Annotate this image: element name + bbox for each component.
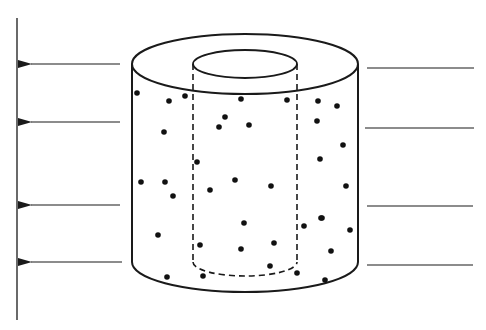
particle-dot (347, 227, 353, 233)
hollow-cylinder-diagram (0, 0, 486, 330)
particle-dot (207, 187, 213, 193)
particle-dot (294, 270, 300, 276)
particle-dot (267, 263, 273, 269)
particle-dot (268, 183, 274, 189)
particle-dot (340, 142, 346, 148)
particle-dot (161, 129, 167, 135)
particle-dot (319, 215, 325, 221)
inner-bottom-arc (193, 262, 297, 276)
particle-dot (166, 98, 172, 104)
particle-dot (328, 248, 334, 254)
particle-dot (216, 124, 222, 130)
particle-dot (301, 223, 307, 229)
particle-dot (164, 274, 170, 280)
particle-dot (162, 179, 168, 185)
particle-dot (155, 232, 161, 238)
particle-dot (182, 93, 188, 99)
particle-dot (232, 177, 238, 183)
particle-dot (241, 220, 247, 226)
inner-cylinder-dashed (193, 50, 297, 276)
particle-dot (170, 193, 176, 199)
particle-dot (343, 183, 349, 189)
particle-dot (138, 179, 144, 185)
particle-dot (246, 122, 252, 128)
particle-dot (315, 98, 321, 104)
diagram-canvas (0, 0, 486, 330)
outgoing-arrows (31, 64, 122, 262)
particle-dot (322, 277, 328, 283)
particle-dot (197, 242, 203, 248)
particle-dot (284, 97, 290, 103)
distributed-dots (134, 90, 353, 283)
particle-dot (200, 273, 206, 279)
particle-dot (271, 240, 277, 246)
particle-dot (194, 159, 200, 165)
incoming-lines (365, 68, 474, 265)
particle-dot (317, 156, 323, 162)
particle-dot (314, 118, 320, 124)
particle-dot (222, 114, 228, 120)
inner-top-ellipse (193, 50, 297, 78)
particle-dot (134, 90, 140, 96)
particle-dot (334, 103, 340, 109)
particle-dot (238, 96, 244, 102)
particle-dot (238, 246, 244, 252)
